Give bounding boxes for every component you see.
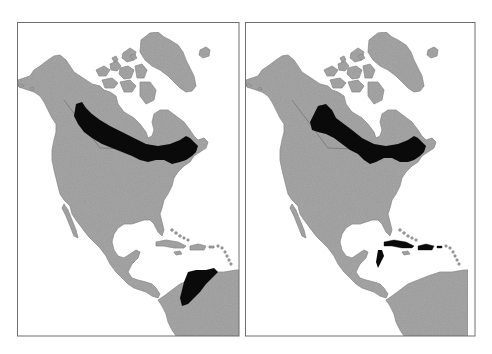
right-map-panel <box>246 23 475 336</box>
range-maps-figure <box>0 0 492 354</box>
left-map-panel <box>18 23 240 336</box>
figure <box>0 0 492 354</box>
range-puerto-rico-right <box>437 246 442 248</box>
